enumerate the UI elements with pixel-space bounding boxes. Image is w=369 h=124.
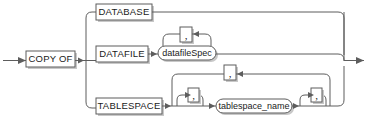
left-fork-spine <box>86 12 96 108</box>
datafile-comma-label: , <box>185 29 188 41</box>
tablespace-left-comma-label: , <box>192 89 195 101</box>
syntax-diagram-canvas: COPY OF DATABASE DATAFILE <box>0 0 369 124</box>
entry-rail <box>3 57 26 64</box>
tablespace-name-label: tablespace_name <box>218 101 289 111</box>
tablespace-outer-comma-label: , <box>229 67 232 79</box>
tablespace-left-comma-loop: , <box>172 88 208 106</box>
railroad-diagram: COPY OF DATABASE DATAFILE <box>0 0 369 124</box>
node-copy-of: COPY OF <box>26 51 77 69</box>
node-datafile: DATAFILE <box>96 46 150 64</box>
tablespace-right-comma-loop: , <box>292 88 330 109</box>
database-label: DATABASE <box>99 6 150 17</box>
datafile-spec-label: datafileSpec <box>162 48 212 58</box>
tablespace-label: TABLESPACE <box>98 100 161 111</box>
node-tablespace-name: tablespace_name <box>216 99 294 115</box>
copy-of-label: COPY OF <box>29 53 73 64</box>
node-database: DATABASE <box>96 4 154 22</box>
datafile-exit-rail <box>216 54 344 61</box>
datafile-comma-loop: , <box>163 27 211 46</box>
tablespace-name-entry-rail <box>208 103 216 109</box>
exit-rail <box>344 12 364 64</box>
node-datafile-spec: datafileSpec <box>158 46 218 62</box>
node-tablespace: TABLESPACE <box>96 98 164 116</box>
tablespace-right-comma-label: , <box>315 89 318 101</box>
tablespace-converge-rail <box>330 66 344 106</box>
datafile-label: DATAFILE <box>99 48 145 59</box>
